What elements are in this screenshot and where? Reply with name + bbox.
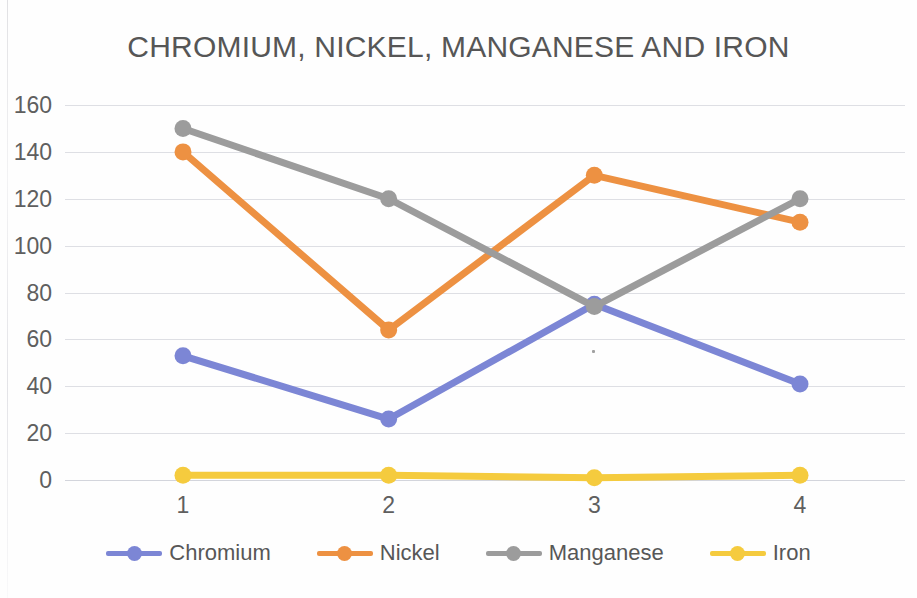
series-manganese <box>175 120 809 315</box>
data-point <box>175 467 192 484</box>
y-axis-tick-label: 80 <box>0 279 52 306</box>
y-axis-tick-label: 160 <box>0 92 52 119</box>
data-point <box>175 120 192 137</box>
data-point <box>586 298 603 315</box>
legend-dot <box>337 546 352 561</box>
data-point <box>380 190 397 207</box>
data-point <box>380 411 397 428</box>
x-axis: 1234 <box>65 492 905 526</box>
x-axis-tick-label: 2 <box>382 492 395 519</box>
legend-marker-icon <box>486 544 542 562</box>
legend-label: Iron <box>773 540 811 566</box>
legend-label: Nickel <box>380 540 440 566</box>
y-axis-tick-label: 40 <box>0 373 52 400</box>
y-axis-tick-label: 20 <box>0 420 52 447</box>
x-axis-tick-label: 4 <box>794 492 807 519</box>
data-point <box>586 469 603 486</box>
y-axis-tick-label: 100 <box>0 232 52 259</box>
gridline <box>65 480 905 481</box>
series-layer <box>65 105 905 480</box>
legend-dot <box>127 546 142 561</box>
y-axis-tick-label: 0 <box>0 467 52 494</box>
legend-item-manganese[interactable]: Manganese <box>486 540 664 566</box>
legend-item-iron[interactable]: Iron <box>710 540 811 566</box>
data-point <box>792 375 809 392</box>
legend-label: Chromium <box>169 540 270 566</box>
chart-page: CHROMIUM, NICKEL, MANGANESE AND IRON 160… <box>0 0 917 598</box>
series-line <box>183 152 800 330</box>
data-point <box>586 167 603 184</box>
y-axis-tick-label: 140 <box>0 138 52 165</box>
legend-marker-icon <box>317 544 373 562</box>
series-iron <box>175 467 809 486</box>
y-axis: 160140120100806040200 <box>0 105 52 480</box>
plot-area <box>65 105 905 480</box>
x-axis-tick-label: 3 <box>588 492 601 519</box>
legend-item-nickel[interactable]: Nickel <box>317 540 440 566</box>
y-axis-tick-label: 60 <box>0 326 52 353</box>
x-axis-tick-label: 1 <box>177 492 190 519</box>
series-chromium <box>175 296 809 428</box>
data-point <box>175 347 192 364</box>
legend-item-chromium[interactable]: Chromium <box>106 540 270 566</box>
legend-marker-icon <box>106 544 162 562</box>
scan-speck-artifact <box>592 350 595 353</box>
legend-dot <box>506 546 521 561</box>
chart-legend: ChromiumNickelManganeseIron <box>0 540 917 566</box>
y-axis-tick-label: 120 <box>0 185 52 212</box>
data-point <box>380 467 397 484</box>
legend-marker-icon <box>710 544 766 562</box>
chart-title: CHROMIUM, NICKEL, MANGANESE AND IRON <box>0 30 917 64</box>
legend-dot <box>730 546 745 561</box>
data-point <box>792 214 809 231</box>
legend-label: Manganese <box>549 540 664 566</box>
series-line <box>183 475 800 477</box>
series-line <box>183 304 800 419</box>
data-point <box>380 322 397 339</box>
data-point <box>175 143 192 160</box>
data-point <box>792 467 809 484</box>
data-point <box>792 190 809 207</box>
series-line <box>183 128 800 306</box>
